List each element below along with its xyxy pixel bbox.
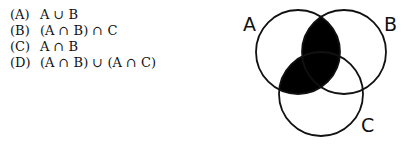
set-b-label: B xyxy=(384,13,397,35)
set-a-label: A xyxy=(243,13,256,35)
venn-diagram: A B C xyxy=(0,0,409,149)
set-c-label: C xyxy=(361,114,374,136)
